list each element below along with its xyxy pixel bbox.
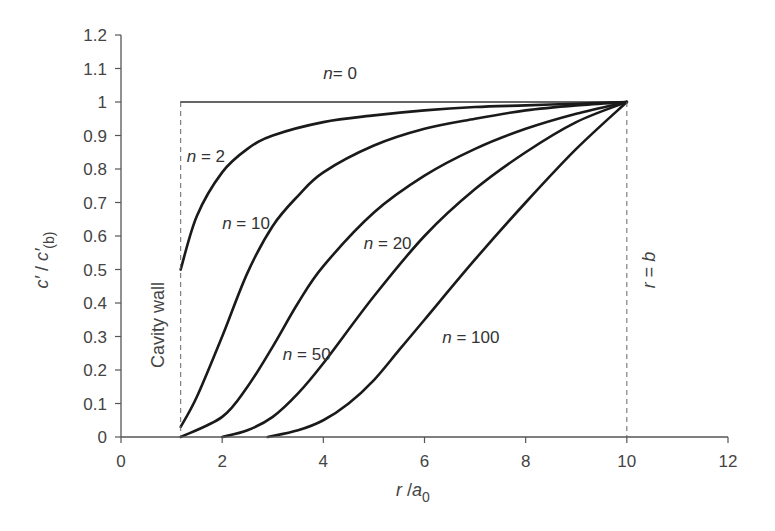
- y-tick-label: 0.7: [83, 194, 107, 213]
- y-tick-label: 0.1: [83, 395, 107, 414]
- y-tick-label: 0.9: [83, 127, 107, 146]
- boundary-label: r = b: [639, 252, 659, 289]
- x-axis-title: r /a0: [396, 480, 430, 505]
- x-tick-label: 4: [319, 452, 328, 471]
- cavity-wall-label: Cavity wall: [148, 282, 168, 368]
- y-tick-label: 0.2: [83, 361, 107, 380]
- series-n50: [222, 102, 627, 437]
- series-n10: [181, 102, 627, 427]
- y-tick-label: 0.4: [83, 294, 107, 313]
- y-tick-label: 0.8: [83, 160, 107, 179]
- chart: 00.10.20.30.40.50.60.70.80.911.11.202468…: [0, 0, 775, 531]
- curve-label: n = 100: [442, 328, 499, 347]
- x-tick-label: 8: [521, 452, 530, 471]
- x-tick-label: 2: [217, 452, 226, 471]
- x-tick-label: 10: [617, 452, 636, 471]
- x-tick-label: 0: [116, 452, 125, 471]
- curve-label: n = 20: [364, 234, 412, 253]
- y-tick-label: 0.3: [83, 328, 107, 347]
- y-tick-label: 0: [98, 428, 107, 447]
- curve-label: n = 50: [283, 345, 331, 364]
- y-tick-label: 1: [98, 93, 107, 112]
- x-tick-label: 6: [420, 452, 429, 471]
- y-tick-label: 0.6: [83, 227, 107, 246]
- curve-label: n = 10: [222, 214, 270, 233]
- curve-label: n= 0: [323, 64, 357, 83]
- y-axis-title: c′ / c′(b): [32, 232, 57, 289]
- x-tick-label: 12: [719, 452, 738, 471]
- y-tick-label: 1.1: [83, 60, 107, 79]
- y-tick-label: 1.2: [83, 26, 107, 45]
- curve-label: n = 2: [187, 147, 225, 166]
- plot-curves: [181, 102, 627, 437]
- y-tick-label: 0.5: [83, 261, 107, 280]
